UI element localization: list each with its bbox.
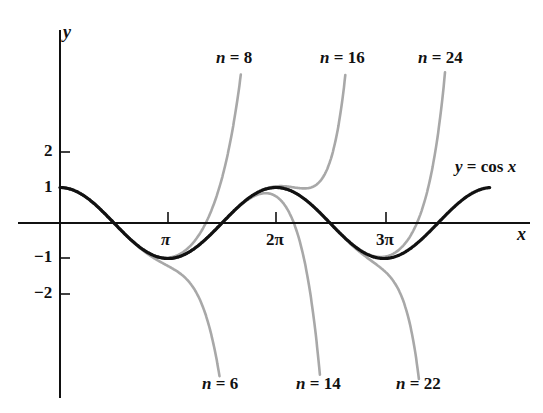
n-value: = 6 [211, 374, 238, 393]
taylor-line-n6 [60, 188, 220, 377]
n-value: = 14 [305, 374, 340, 393]
y-tick-label-2: 2 [44, 141, 53, 161]
x-ticks [168, 212, 386, 223]
label-n24: n = 24 [418, 48, 463, 68]
n-value: = 22 [405, 374, 440, 393]
taylor-line-n22 [60, 188, 419, 380]
cos-label-eq: = cos [463, 157, 508, 176]
x-tick-label-2pi: 2π [266, 230, 284, 250]
y-tick-label-minus-2: −2 [34, 283, 52, 303]
n-value: = 16 [329, 48, 364, 67]
label-n16: n = 16 [320, 48, 365, 68]
label-n22: n = 22 [396, 374, 441, 394]
x-tick-label-3pi: 3π [376, 230, 394, 250]
cos-curve-label: y = cos x [455, 157, 516, 177]
n-value: = 24 [427, 48, 462, 67]
y-tick-label-minus-1: −1 [34, 247, 52, 267]
x-axis-label: x [517, 224, 526, 245]
cos-label-x: x [508, 157, 517, 176]
label-n6: n = 6 [202, 374, 238, 394]
cos-label-y: y [455, 157, 463, 176]
label-n8: n = 8 [216, 48, 252, 68]
label-n14: n = 14 [296, 374, 341, 394]
y-axis-label: y [63, 22, 71, 43]
y-tick-label-1: 1 [44, 177, 53, 197]
x-tick-label-pi: π [161, 230, 170, 250]
n-value: = 8 [225, 48, 252, 67]
